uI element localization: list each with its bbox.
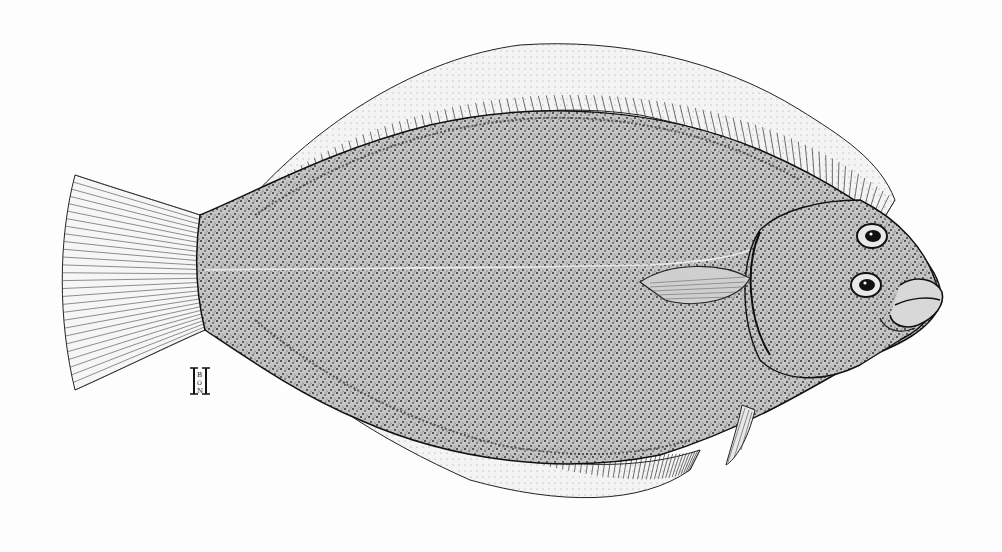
artist-monogram: B O N	[190, 368, 210, 395]
monogram-letter-o: O	[197, 379, 202, 386]
upper-eye	[857, 224, 887, 248]
lower-eye	[851, 273, 881, 297]
flounder-illustration: B O N	[0, 0, 1002, 552]
monogram-letter-n: N	[197, 387, 203, 395]
caudal-fin	[62, 175, 205, 390]
monogram-letter-b: B	[197, 371, 202, 379]
